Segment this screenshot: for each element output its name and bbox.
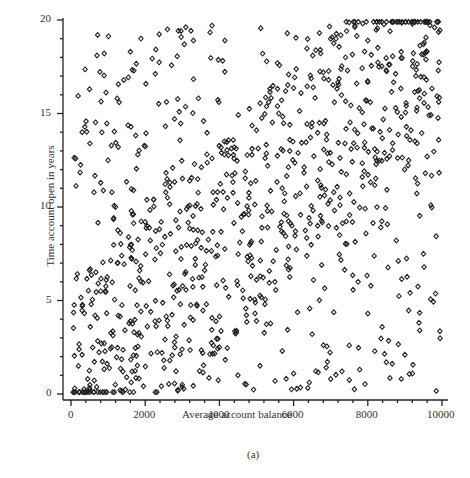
data-point <box>324 137 328 142</box>
x-tick-label: 0 <box>68 408 74 420</box>
data-point <box>436 68 440 73</box>
data-point <box>209 56 213 61</box>
data-point <box>270 120 274 125</box>
data-point <box>438 336 442 341</box>
data-point <box>436 100 440 105</box>
data-point <box>217 314 221 319</box>
data-point <box>83 67 87 72</box>
data-point <box>145 197 149 202</box>
data-point <box>339 258 343 263</box>
data-point <box>169 63 173 68</box>
data-point <box>315 130 319 135</box>
data-point <box>102 51 106 56</box>
data-point <box>259 26 263 31</box>
data-point <box>364 231 368 236</box>
data-point <box>384 360 388 365</box>
data-point <box>338 195 342 200</box>
data-point <box>350 52 354 57</box>
data-point <box>397 294 401 299</box>
data-point <box>147 225 151 230</box>
data-point <box>383 106 387 111</box>
data-point <box>106 34 110 39</box>
data-point <box>357 106 361 111</box>
data-point <box>352 387 356 392</box>
data-point <box>196 96 200 101</box>
y-tick-label: 10 <box>40 199 51 211</box>
data-point <box>324 365 328 370</box>
data-point <box>180 158 184 163</box>
data-point <box>438 28 442 33</box>
data-point <box>164 190 168 195</box>
data-point <box>139 264 143 269</box>
data-point <box>413 176 417 181</box>
data-point <box>152 204 156 209</box>
data-point <box>180 347 184 352</box>
data-point <box>112 297 116 302</box>
data-point <box>109 331 113 336</box>
data-point <box>75 272 79 277</box>
data-point <box>182 42 186 47</box>
data-point <box>216 97 220 102</box>
data-point <box>250 146 254 151</box>
data-point <box>437 95 441 100</box>
data-point <box>342 267 346 272</box>
data-point <box>286 257 290 262</box>
data-point <box>267 280 271 285</box>
data-point <box>291 371 295 376</box>
data-point <box>294 35 298 40</box>
data-point <box>186 220 190 225</box>
data-point <box>139 309 143 314</box>
data-point <box>170 353 174 358</box>
data-point <box>259 239 263 244</box>
data-point <box>141 384 145 389</box>
data-point <box>201 284 205 289</box>
data-point <box>241 288 245 293</box>
data-point <box>172 180 176 185</box>
data-point <box>106 158 110 163</box>
data-point <box>258 258 262 263</box>
data-point <box>80 352 84 357</box>
data-point <box>92 190 96 195</box>
data-point <box>351 141 355 146</box>
data-point <box>188 348 192 353</box>
data-point <box>267 269 271 274</box>
data-point <box>119 242 123 247</box>
data-point <box>391 80 395 85</box>
data-point <box>356 345 360 350</box>
data-point <box>210 327 214 332</box>
data-point <box>262 330 266 335</box>
data-point <box>103 349 107 354</box>
data-point <box>110 280 114 285</box>
data-point <box>88 324 92 329</box>
data-point <box>166 324 170 329</box>
data-point <box>104 311 108 316</box>
data-point <box>199 348 203 353</box>
data-point <box>209 340 213 345</box>
data-point <box>179 257 183 262</box>
data-point <box>144 304 148 309</box>
data-point <box>362 49 366 54</box>
data-point <box>114 140 118 145</box>
data-point <box>347 343 351 348</box>
data-point <box>168 231 172 236</box>
data-point <box>184 25 188 30</box>
data-point <box>231 138 235 143</box>
data-point <box>173 345 177 350</box>
x-tick-label: 4000 <box>207 408 229 420</box>
data-point <box>277 111 281 116</box>
data-point <box>149 351 153 356</box>
data-point <box>129 380 133 385</box>
data-point <box>363 140 367 145</box>
x-axis-label: Average account balance <box>182 408 292 420</box>
data-point <box>303 228 307 233</box>
data-point <box>119 253 123 258</box>
data-point <box>199 245 203 250</box>
data-point <box>167 382 171 387</box>
data-point <box>88 141 92 146</box>
data-point <box>360 161 364 166</box>
data-point <box>72 353 76 358</box>
data-point <box>133 288 137 293</box>
data-point <box>437 60 441 65</box>
data-point <box>353 239 357 244</box>
data-point <box>172 340 176 345</box>
